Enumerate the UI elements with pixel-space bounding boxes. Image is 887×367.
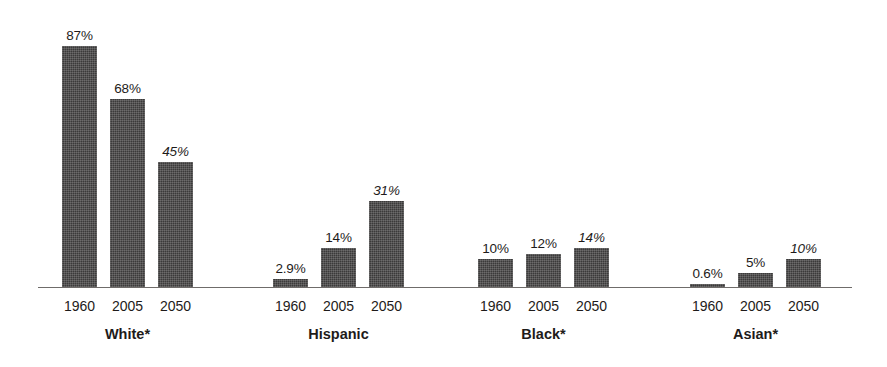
x-tick-label: 1960 — [478, 297, 513, 315]
bar-slot[interactable]: 5% — [738, 256, 773, 288]
bar-value-label: 10% — [790, 242, 816, 256]
bar-slot[interactable]: 2.9% — [273, 262, 308, 288]
x-tick-label: 2005 — [526, 297, 561, 315]
x-tick-label: 2050 — [574, 297, 609, 315]
bar-slot[interactable]: 45% — [158, 145, 193, 288]
bar-value-label: 45% — [162, 145, 188, 159]
bar-value-label: 12% — [530, 237, 556, 251]
bar-value-label: 68% — [114, 82, 140, 96]
bar-rect[interactable] — [478, 259, 513, 287]
bars-row: 10%12%14% — [478, 231, 609, 288]
bar-rect[interactable] — [786, 259, 821, 287]
x-tick-labels: 196020052050 — [478, 297, 609, 315]
bar-rect[interactable] — [62, 46, 97, 287]
bars-row: 87%68%45% — [62, 29, 193, 288]
bar-slot[interactable]: 14% — [574, 231, 609, 288]
bar-rect[interactable] — [369, 201, 404, 287]
bars-row: 2.9%14%31% — [273, 184, 404, 288]
x-tick-label: 1960 — [690, 297, 725, 315]
bar-rect[interactable] — [738, 273, 773, 287]
bar-slot[interactable]: 31% — [369, 184, 404, 288]
bar-slot[interactable]: 10% — [478, 242, 513, 288]
bar-rect[interactable] — [110, 99, 145, 287]
bar-group: 0.6%5%10%196020052050Asian* — [690, 0, 821, 367]
x-tick-label: 2005 — [321, 297, 356, 315]
bar-group: 10%12%14%196020052050Black* — [478, 0, 609, 367]
bars-row: 0.6%5%10% — [690, 242, 821, 288]
x-tick-labels: 196020052050 — [273, 297, 404, 315]
x-tick-label: 2005 — [110, 297, 145, 315]
x-tick-labels: 196020052050 — [690, 297, 821, 315]
bar-value-label: 14% — [325, 231, 351, 245]
x-tick-label: 2050 — [158, 297, 193, 315]
bar-slot[interactable]: 68% — [110, 82, 145, 288]
bar-value-label: 31% — [373, 184, 399, 198]
bar-rect[interactable] — [158, 162, 193, 287]
category-label: Hispanic — [273, 325, 404, 343]
bar-slot[interactable]: 14% — [321, 231, 356, 288]
bar-group: 87%68%45%196020052050White* — [62, 0, 193, 367]
bar-slot[interactable]: 10% — [786, 242, 821, 288]
bar-slot[interactable]: 87% — [62, 29, 97, 288]
x-tick-label: 2050 — [369, 297, 404, 315]
x-tick-label: 1960 — [273, 297, 308, 315]
bar-rect[interactable] — [574, 248, 609, 287]
plot-area: 87%68%45%196020052050White*2.9%14%31%196… — [0, 0, 887, 367]
bar-slot[interactable]: 0.6% — [690, 267, 725, 288]
x-tick-labels: 196020052050 — [62, 297, 193, 315]
bar-rect[interactable] — [690, 284, 725, 287]
bar-rect[interactable] — [273, 279, 308, 287]
bar-value-label: 10% — [482, 242, 508, 256]
bar-chart: 87%68%45%196020052050White*2.9%14%31%196… — [0, 0, 887, 367]
category-label: Asian* — [690, 325, 821, 343]
category-label: Black* — [478, 325, 609, 343]
bar-rect[interactable] — [321, 248, 356, 287]
x-tick-label: 1960 — [62, 297, 97, 315]
bar-group: 2.9%14%31%196020052050Hispanic — [273, 0, 404, 367]
x-tick-label: 2005 — [738, 297, 773, 315]
category-label: White* — [62, 325, 193, 343]
bar-value-label: 2.9% — [276, 262, 306, 276]
bar-value-label: 0.6% — [693, 267, 723, 281]
bar-rect[interactable] — [526, 254, 561, 287]
bar-slot[interactable]: 12% — [526, 237, 561, 288]
bar-value-label: 87% — [66, 29, 92, 43]
bar-value-label: 5% — [746, 256, 765, 270]
x-tick-label: 2050 — [786, 297, 821, 315]
bar-value-label: 14% — [578, 231, 604, 245]
